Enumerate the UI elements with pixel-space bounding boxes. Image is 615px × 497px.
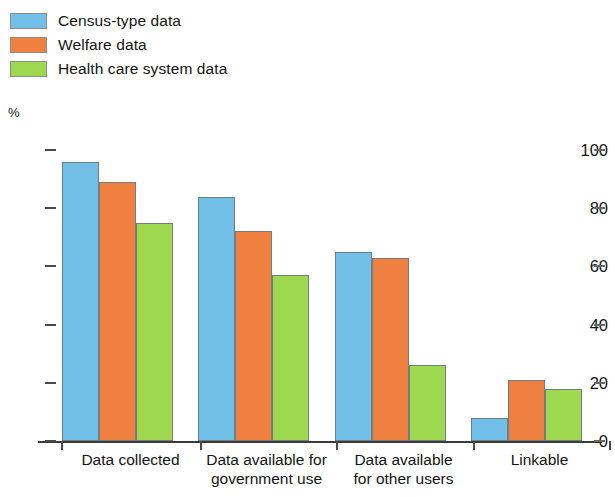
- bar: [335, 252, 372, 441]
- y-axis-tick-mark: [45, 382, 56, 384]
- bar: [136, 223, 173, 441]
- y-axis-tick-mark: [45, 265, 56, 267]
- x-axis-tick-mark: [609, 441, 611, 450]
- x-axis-tick-mark: [200, 441, 202, 450]
- y-axis-tick-mark: [45, 324, 56, 326]
- y-axis-tick-mark-right: [594, 265, 605, 267]
- bar: [99, 182, 136, 441]
- x-axis-label-line: for other users: [313, 469, 494, 488]
- x-axis-category-label: Linkable: [449, 450, 615, 469]
- y-axis-tick-mark-right: [594, 207, 605, 209]
- y-axis-tick-mark-right: [594, 440, 605, 442]
- bar: [471, 418, 508, 441]
- bar: [198, 197, 235, 441]
- y-axis-tick-mark: [45, 440, 56, 442]
- x-axis-line: [38, 441, 602, 443]
- x-axis-tick-mark: [61, 441, 63, 450]
- x-axis-tick-mark: [336, 441, 338, 450]
- bar: [409, 365, 446, 441]
- x-axis-label-line: Linkable: [449, 450, 615, 469]
- x-axis-tick-mark: [473, 441, 475, 450]
- y-axis-tick-mark: [45, 149, 56, 151]
- y-axis-tick-mark-right: [594, 382, 605, 384]
- bar: [508, 380, 545, 441]
- bar: [62, 162, 99, 441]
- bar: [235, 231, 272, 441]
- bar: [372, 258, 409, 441]
- bar: [272, 275, 309, 441]
- y-axis-tick-mark-right: [594, 149, 605, 151]
- bar: [545, 389, 582, 441]
- y-axis-tick-mark-right: [594, 324, 605, 326]
- y-axis-tick-mark: [45, 207, 56, 209]
